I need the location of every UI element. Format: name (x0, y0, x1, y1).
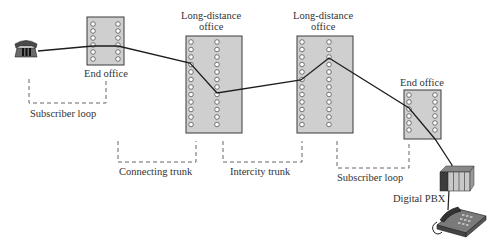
intercity-trunk-bracket (223, 141, 302, 162)
telephone-icon (15, 41, 37, 58)
connection-path (38, 46, 452, 178)
end-office-2-label: End office (400, 77, 444, 88)
pbx-to-phone-line (448, 190, 449, 210)
end-office-1 (87, 17, 124, 65)
subscriber-loop-2-label: Subscriber loop (337, 172, 403, 183)
connecting-trunk-bracket (118, 141, 196, 162)
long-distance-office-1 (186, 36, 242, 133)
connecting-trunk-label: Connecting trunk (119, 166, 192, 177)
end-office-2 (404, 90, 441, 139)
subscriber-loop-1-label: Subscriber loop (30, 108, 96, 119)
end-office-1-label: End office (84, 68, 128, 79)
long-distance-office-2 (297, 36, 353, 133)
digital-pbx-label: Digital PBX (393, 193, 445, 204)
long-distance-2-label-line2: office (311, 21, 335, 32)
subscriber-loop-2-bracket (337, 141, 409, 168)
pbx-icon (440, 166, 474, 191)
telephone-network-diagram (0, 0, 500, 252)
long-distance-1-label-line2: office (199, 21, 223, 32)
subscriber-loop-1-bracket (29, 79, 106, 103)
intercity-trunk-label: Intercity trunk (230, 166, 290, 177)
desk-phone-icon (433, 207, 486, 237)
long-distance-2-label-line1: Long-distance (293, 10, 353, 21)
long-distance-1-label-line1: Long-distance (181, 10, 241, 21)
